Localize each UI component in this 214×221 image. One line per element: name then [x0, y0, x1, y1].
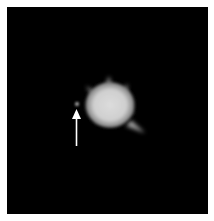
small-punctum [75, 102, 79, 106]
bright-cell [83, 80, 137, 130]
micrograph [7, 7, 208, 214]
arrow-icon [72, 109, 81, 146]
micrograph-frame [7, 7, 208, 214]
